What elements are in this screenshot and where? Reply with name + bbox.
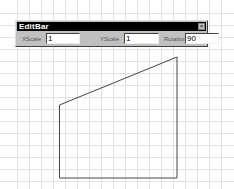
editbar-fields: XScale YScale Rotation xyxy=(16,32,207,46)
rotation-input[interactable] xyxy=(185,33,219,44)
yscale-input[interactable] xyxy=(124,33,159,44)
yscale-label: YScale xyxy=(100,35,119,43)
editbar-title: EditBar xyxy=(19,21,49,32)
rotation-label: Rotation xyxy=(164,35,186,43)
editbar-titlebar[interactable]: EditBar × xyxy=(17,22,206,31)
close-icon: × xyxy=(200,23,204,29)
xscale-label: XScale xyxy=(22,35,41,43)
editbar-dialog: EditBar × XScale YScale Rotation xyxy=(15,20,208,47)
close-button[interactable]: × xyxy=(198,23,205,30)
xscale-input[interactable] xyxy=(46,33,80,44)
